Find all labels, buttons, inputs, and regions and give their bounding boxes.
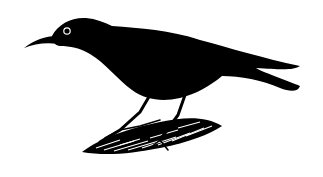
rock bbox=[82, 118, 222, 154]
bird-beak bbox=[24, 36, 58, 48]
bird-illustration bbox=[0, 0, 323, 177]
bird-body bbox=[52, 18, 300, 100]
illustration bbox=[0, 0, 323, 177]
